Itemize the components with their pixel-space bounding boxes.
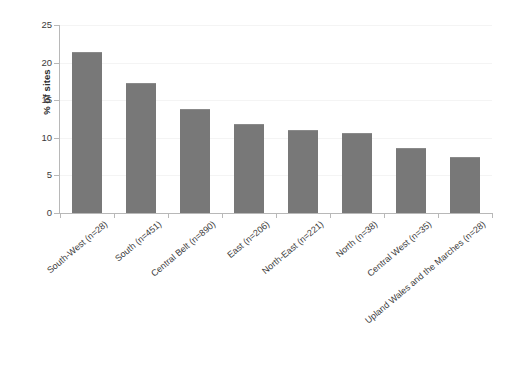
- x-tick-mark: [222, 213, 223, 218]
- x-tick-mark: [438, 213, 439, 218]
- y-tick: 20: [0, 63, 52, 64]
- gridline: [60, 63, 492, 64]
- gridline: [60, 138, 492, 139]
- y-tick-label: 15: [8, 94, 52, 105]
- y-tick: 25: [0, 25, 52, 26]
- x-axis-label-text: East (n=206): [225, 219, 271, 260]
- x-axis-label-text: North (n=38): [334, 219, 379, 259]
- y-tick-label: 10: [8, 132, 52, 143]
- bar: [396, 148, 426, 213]
- x-tick-mark: [168, 213, 169, 218]
- gridline: [60, 25, 492, 26]
- y-tick: 5: [0, 175, 52, 176]
- x-axis-label-text: Upland Wales and the Marches (n=28): [363, 219, 487, 326]
- y-tick: 0: [0, 213, 52, 214]
- bar: [180, 109, 210, 213]
- y-tick-label: 20: [8, 57, 52, 68]
- y-tick: 15: [0, 100, 52, 101]
- bar: [72, 52, 102, 213]
- gridline: [60, 175, 492, 176]
- bar: [126, 83, 156, 213]
- x-tick-mark: [114, 213, 115, 218]
- x-tick-mark: [60, 213, 61, 218]
- y-tick: 10: [0, 138, 52, 139]
- x-axis-label: South-West (n=28): [0, 219, 109, 355]
- x-axis-label-text: South (n=451): [113, 219, 163, 263]
- x-tick-mark: [330, 213, 331, 218]
- bar: [450, 157, 480, 213]
- y-tick-label: 0: [8, 207, 52, 218]
- bar: [234, 124, 264, 213]
- bar-chart: % of sites 0510152025 South-West (n=28)S…: [0, 0, 518, 380]
- plot-area: [60, 25, 492, 213]
- gridline: [60, 100, 492, 101]
- bar: [342, 133, 372, 213]
- x-tick-mark: [384, 213, 385, 218]
- x-tick-mark: [492, 213, 493, 218]
- y-tick-label: 25: [8, 19, 52, 30]
- y-tick-label: 5: [8, 169, 52, 180]
- bar: [288, 130, 318, 213]
- x-tick-mark: [276, 213, 277, 218]
